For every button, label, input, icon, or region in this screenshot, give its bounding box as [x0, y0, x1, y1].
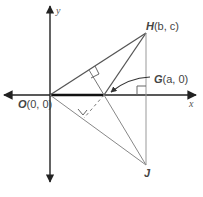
perpendicular-dashed [84, 95, 104, 118]
g-pointer-arrow [111, 77, 150, 92]
point-g-label: G(a, 0) [154, 73, 188, 85]
point-h-label: H(b, c) [146, 20, 179, 32]
x-axis-label: x [188, 98, 194, 109]
coordinate-diagram: y x O(0, 0) H(b, c) G(a, 0) J [0, 0, 203, 197]
right-angle-marker-hj [137, 86, 146, 95]
point-j-label: J [144, 167, 151, 179]
y-axis-label: y [55, 5, 61, 16]
right-angle-marker-oj [78, 109, 87, 115]
segment-gj [104, 95, 146, 165]
segment-oj [50, 95, 146, 165]
perpendicular-to-oh [89, 70, 104, 95]
point-o-label: O(0, 0) [18, 98, 52, 110]
